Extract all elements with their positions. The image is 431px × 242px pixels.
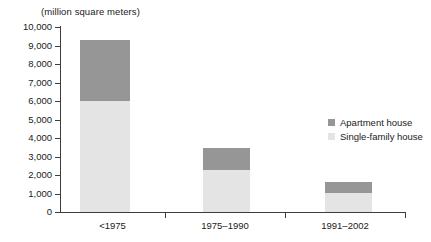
y-axis-tick-label: 10,000	[23, 22, 52, 32]
y-axis-tick-label: 4,000	[28, 133, 52, 143]
y-axis-tick	[55, 27, 60, 28]
bar-segment-single-family-house	[325, 193, 372, 212]
y-axis-tick	[55, 46, 60, 47]
y-axis-tick-label: 5,000	[28, 115, 52, 125]
chart-axis-title: (million square meters)	[41, 6, 140, 17]
x-axis-line	[60, 212, 406, 213]
y-axis-tick-label: 0	[47, 207, 52, 217]
bar-segment-apartment-house	[325, 182, 372, 193]
bar-group	[325, 182, 372, 212]
y-axis-tick	[55, 101, 60, 102]
y-axis-tick	[55, 212, 60, 213]
legend-swatch-single-family-house	[328, 133, 335, 140]
y-axis-tick-label: 7,000	[28, 78, 52, 88]
x-axis-tick	[405, 213, 406, 218]
y-axis-line	[60, 26, 61, 213]
bar-segment-single-family-house	[80, 101, 130, 212]
stacked-bar-chart: (million square meters) 10,0009,0008,000…	[0, 0, 431, 242]
y-axis-tick	[55, 120, 60, 121]
legend-swatch-apartment-house	[328, 119, 335, 126]
y-axis-tick-label: 2,000	[28, 170, 52, 180]
bar-segment-apartment-house	[80, 40, 130, 101]
legend-label-apartment-house: Apartment house	[340, 118, 412, 128]
chart-legend: Apartment house Single-family house	[328, 116, 423, 144]
y-axis-tick	[55, 175, 60, 176]
x-axis-tick	[285, 213, 286, 218]
x-axis-category-label: 1991–2002	[285, 221, 405, 231]
x-axis-category-label: <1975	[60, 221, 165, 231]
bar-segment-apartment-house	[203, 148, 250, 170]
y-axis-tick	[55, 157, 60, 158]
bar-segment-single-family-house	[203, 170, 250, 212]
legend-item-single-family-house: Single-family house	[328, 130, 423, 143]
x-axis-category-label: 1975–1990	[165, 221, 285, 231]
bar-group	[203, 148, 250, 212]
y-axis-tick	[55, 83, 60, 84]
bar-group	[80, 40, 130, 212]
y-axis-tick-label: 6,000	[28, 96, 52, 106]
y-axis-tick	[55, 194, 60, 195]
y-axis-tick	[55, 138, 60, 139]
legend-item-apartment-house: Apartment house	[328, 116, 423, 129]
legend-label-single-family-house: Single-family house	[340, 132, 423, 142]
y-axis-tick-label: 8,000	[28, 59, 52, 69]
x-axis-tick	[165, 213, 166, 218]
y-axis-tick-label: 3,000	[28, 152, 52, 162]
y-axis-tick-label: 9,000	[28, 41, 52, 51]
y-axis-tick-label: 1,000	[28, 189, 52, 199]
y-axis-tick	[55, 64, 60, 65]
